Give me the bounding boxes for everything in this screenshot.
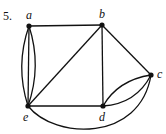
edge-b-d (102, 25, 103, 106)
edge-a-e-straight (28, 26, 29, 106)
node-label-c: c (157, 67, 163, 81)
problem-number: 5. (3, 9, 12, 23)
node-label-b: b (99, 7, 105, 21)
node-d (100, 103, 105, 108)
edge-e-c-arc (28, 75, 151, 129)
node-b (99, 22, 104, 27)
node-label-e: e (23, 110, 29, 124)
edge-b-e (28, 25, 102, 106)
edge-d-c-lower (103, 75, 151, 106)
node-label-d: d (99, 110, 106, 124)
node-c (148, 72, 153, 77)
graph-diagram: 5. a b c d e (0, 0, 166, 134)
node-label-a: a (26, 8, 32, 22)
node-a (26, 23, 31, 28)
node-e (25, 103, 30, 108)
edge-d-c-upper (103, 75, 151, 106)
edge-a-b (29, 25, 102, 26)
edge-b-c (102, 25, 151, 75)
